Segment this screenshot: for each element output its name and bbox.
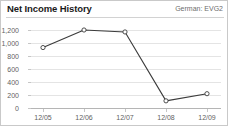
data-point-marker[interactable] [123, 30, 127, 34]
x-axis-tick-label: 12/06 [75, 114, 93, 121]
x-axis-tick-label: 12/09 [198, 114, 216, 121]
y-axis-tick-label: 200 [0, 92, 19, 99]
x-axis-tick-mark [84, 109, 85, 112]
data-point-marker[interactable] [41, 45, 45, 49]
x-axis-tick-label: 12/05 [34, 114, 52, 121]
y-axis-tick-label: 0 [0, 105, 19, 112]
chart-header: Net Income History German: EVG2 [1, 1, 228, 18]
page-title: Net Income History [7, 3, 92, 14]
y-axis-tick-label: 1,200 [0, 27, 19, 34]
x-axis-tick-mark [43, 109, 44, 112]
ticker-symbol-label: German: EVG2 [175, 5, 223, 12]
data-point-marker[interactable] [205, 92, 209, 96]
y-axis-tick-label: 800 [0, 53, 19, 60]
x-axis-tick-label: 12/07 [116, 114, 134, 121]
series-line-chart [31, 30, 221, 108]
x-axis-tick-mark [125, 109, 126, 112]
x-axis-line [31, 108, 221, 109]
y-axis-tick-label: 600 [0, 66, 19, 73]
y-axis-tick-label: 400 [0, 79, 19, 86]
data-point-marker[interactable] [164, 99, 168, 103]
series-polyline [43, 30, 207, 101]
plot-area-wrapper: 02004006008001,0001,200 12/0512/0612/071… [1, 18, 228, 126]
x-axis-tick-mark [166, 109, 167, 112]
y-axis-tick-label: 1,000 [0, 40, 19, 47]
data-point-marker[interactable] [82, 28, 86, 32]
x-axis-tick-mark [207, 109, 208, 112]
plot-area: 02004006008001,0001,200 12/0512/0612/071… [31, 30, 221, 108]
x-axis-tick-label: 12/08 [157, 114, 175, 121]
net-income-history-chart-widget: Net Income History German: EVG2 02004006… [0, 0, 228, 126]
